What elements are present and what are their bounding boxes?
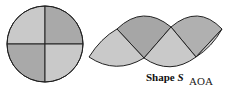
circle-quadrant-bottom-left [7, 44, 45, 82]
credit-label: AOA [189, 75, 213, 87]
shape-label-text: Shape [146, 71, 178, 83]
circle-quadrant-bottom-right [45, 44, 83, 82]
shape-label-variable: S [178, 71, 184, 83]
shape-s-label: Shape S [146, 71, 184, 83]
circle-figure [7, 6, 83, 82]
circle-quadrant-top-right [45, 6, 83, 44]
shape-s-figure [89, 16, 222, 67]
circle-quadrant-top-left [7, 6, 45, 44]
